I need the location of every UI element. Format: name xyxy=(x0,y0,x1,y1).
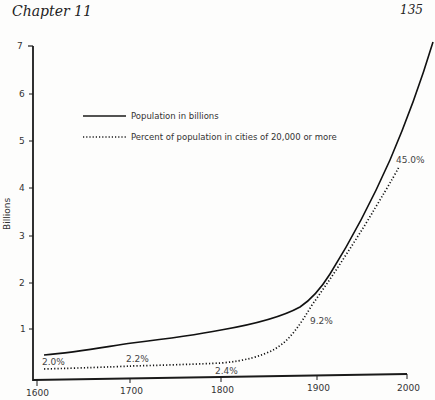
legend-label-percent: Percent of population in cities of 20,00… xyxy=(131,132,337,142)
annotation-2-0: 2.0% xyxy=(42,357,65,367)
y-axis: 7 6 5 4 3 2 1 Billions xyxy=(2,41,33,381)
y-tick-4: 4 xyxy=(19,183,25,193)
annotation-9-2: 9.2% xyxy=(310,316,333,326)
y-tick-1: 1 xyxy=(20,324,26,334)
y-tick-7: 7 xyxy=(17,41,23,51)
y-tick-5: 5 xyxy=(19,136,25,146)
x-tick-1700: 1700 xyxy=(120,386,143,396)
annotation-45-0: 45.0% xyxy=(396,155,425,165)
y-tick-6: 6 xyxy=(19,89,25,99)
percent-urban-line xyxy=(44,167,399,369)
x-tick-1900: 1900 xyxy=(307,383,330,393)
y-tick-3: 3 xyxy=(19,231,25,241)
annotation-2-4: 2.4% xyxy=(215,366,238,376)
y-axis-label: Billions xyxy=(2,198,12,230)
annotation-2-2: 2.2% xyxy=(126,354,149,364)
x-tick-1800: 1800 xyxy=(211,385,234,395)
legend-label-population: Population in billions xyxy=(131,111,219,121)
x-axis: 1600 1700 1800 1900 2000 xyxy=(26,374,420,398)
y-tick-2: 2 xyxy=(19,278,25,288)
x-tick-2000: 2000 xyxy=(397,383,420,393)
population-chart: 7 6 5 4 3 2 1 Billions 1600 1700 1800 19… xyxy=(0,0,435,400)
population-line xyxy=(44,42,433,355)
x-tick-1600: 1600 xyxy=(26,388,49,398)
legend: Population in billions Percent of popula… xyxy=(83,111,337,142)
